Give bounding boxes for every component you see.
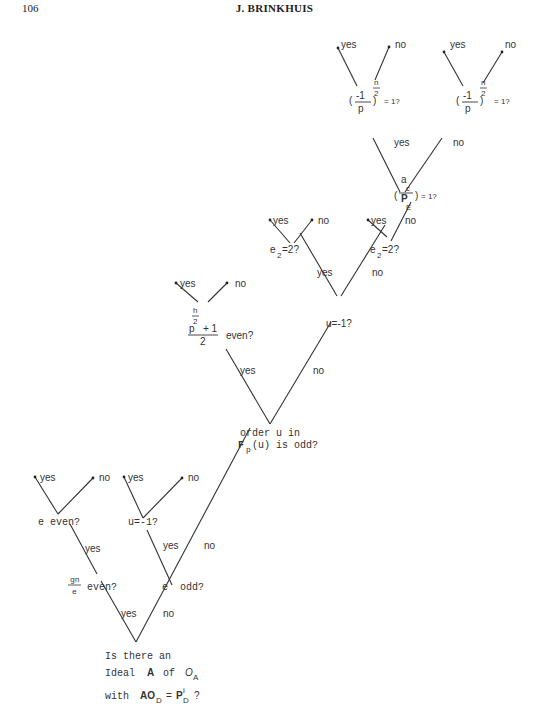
node-p-h-half: h 2 p + 1 2 even?	[188, 306, 254, 347]
svg-text:no: no	[395, 39, 407, 50]
svg-text:D: D	[156, 696, 162, 705]
svg-text:P: P	[176, 690, 183, 701]
svg-text:D: D	[183, 696, 189, 705]
svg-text:= 1?: = 1?	[421, 192, 437, 201]
svg-text:2: 2	[200, 336, 206, 347]
svg-text:yes: yes	[394, 137, 410, 148]
svg-text:no: no	[204, 540, 216, 551]
svg-text:+ 1: + 1	[203, 323, 218, 334]
svg-text:u=-1?: u=-1?	[326, 318, 352, 329]
svg-text:-1: -1	[463, 90, 472, 101]
svg-text:no: no	[372, 267, 384, 278]
svg-text:no: no	[99, 472, 111, 483]
node-e-odd: e odd?	[162, 582, 204, 593]
svg-text:no: no	[235, 278, 247, 289]
svg-text:order u in: order u in	[240, 428, 300, 439]
svg-text:-1: -1	[356, 90, 365, 101]
svg-text:n: n	[374, 78, 378, 87]
svg-text:yes: yes	[371, 215, 387, 226]
svg-text:yes: yes	[273, 215, 289, 226]
svg-text:yes: yes	[317, 267, 333, 278]
svg-text:?: ?	[194, 690, 200, 701]
svg-text:yes: yes	[163, 540, 179, 551]
svg-text:2: 2	[374, 89, 379, 98]
leaf-dots	[34, 46, 504, 480]
svg-text:e: e	[72, 587, 77, 596]
svg-text:(: (	[456, 95, 460, 106]
node-e2-left: e 2 =2?	[270, 244, 299, 260]
node-e2-right: e 2 =2?	[370, 244, 399, 260]
svg-text:=2?: =2?	[282, 244, 299, 255]
svg-text:of: of	[163, 668, 175, 679]
node-legendre-right: ( -1 p ) n 2 = 1?	[456, 78, 510, 114]
svg-text:n: n	[481, 78, 485, 87]
svg-text:yes: yes	[128, 472, 144, 483]
svg-text:=: =	[166, 690, 172, 701]
svg-text:p: p	[465, 103, 471, 114]
svg-text:even?: even?	[226, 330, 254, 341]
node-u-eq-minus1-left: u=-1?	[128, 517, 158, 528]
svg-text:no: no	[405, 215, 417, 226]
node-gn-over-e-even: gn e even?	[68, 575, 117, 596]
svg-text:no: no	[453, 137, 465, 148]
svg-text:yes: yes	[240, 365, 256, 376]
svg-text:u=-1?: u=-1?	[128, 517, 158, 528]
svg-text:no: no	[163, 608, 175, 619]
svg-text:odd?: odd?	[180, 582, 204, 593]
node-e-even: e even?	[38, 517, 80, 528]
svg-text:e: e	[270, 244, 276, 255]
svg-text:A: A	[193, 673, 199, 682]
svg-text:yes: yes	[180, 278, 196, 289]
svg-text:yes: yes	[341, 39, 357, 50]
svg-text:p: p	[189, 323, 195, 334]
node-legendre-left: ( -1 p ) n 2 = 1?	[349, 78, 400, 114]
svg-text:yes: yes	[85, 543, 101, 554]
svg-text:e even?: e even?	[38, 517, 80, 528]
svg-text:h: h	[193, 306, 197, 315]
svg-text:= 1?: = 1?	[494, 97, 510, 106]
leaf-labels: yes no yes no yes no yes no yes no yes n…	[40, 39, 517, 483]
svg-text:yes: yes	[450, 39, 466, 50]
svg-text:yes: yes	[40, 472, 56, 483]
svg-text:c: c	[406, 184, 410, 193]
svg-text:2: 2	[481, 89, 486, 98]
svg-text:no: no	[313, 365, 325, 376]
node-u-eq-minus1-right: u=-1?	[326, 318, 352, 329]
svg-text:e: e	[162, 582, 168, 593]
svg-text:no: no	[188, 472, 200, 483]
svg-text:Is there an: Is there an	[105, 651, 171, 662]
svg-text:O: O	[185, 667, 193, 678]
svg-text:F: F	[238, 440, 244, 451]
svg-text:even?: even?	[87, 582, 117, 593]
svg-text:E: E	[406, 203, 411, 212]
svg-text:(u) is odd?: (u) is odd?	[252, 440, 318, 451]
svg-text:Ideal: Ideal	[105, 668, 135, 679]
svg-text:p: p	[246, 445, 251, 454]
svg-text:with: with	[105, 691, 129, 702]
tree-edges	[35, 47, 502, 642]
node-root-question: Is there an Ideal A of O A with AO D = P…	[105, 651, 200, 705]
svg-text:yes: yes	[121, 608, 137, 619]
node-order-u: order u in F p (u) is odd?	[238, 428, 318, 454]
svg-text:=2?: =2?	[382, 244, 399, 255]
svg-text:= 1?: = 1?	[384, 97, 400, 106]
svg-text:AO: AO	[140, 690, 155, 701]
svg-text:A: A	[147, 667, 154, 678]
svg-text:e: e	[370, 244, 376, 255]
svg-text:no: no	[318, 215, 330, 226]
svg-text:(: (	[349, 95, 353, 106]
decision-tree-diagram: yes no yes no yes no yes no yes no yes n…	[0, 0, 549, 727]
svg-text:i: i	[183, 686, 185, 695]
svg-text:no: no	[505, 39, 517, 50]
svg-text:gn: gn	[70, 575, 80, 584]
svg-text:): )	[415, 190, 418, 201]
svg-text:p: p	[358, 103, 364, 114]
svg-text:(: (	[394, 190, 398, 201]
node-a-c-PE: a c ( P ) E = 1?	[394, 174, 437, 212]
